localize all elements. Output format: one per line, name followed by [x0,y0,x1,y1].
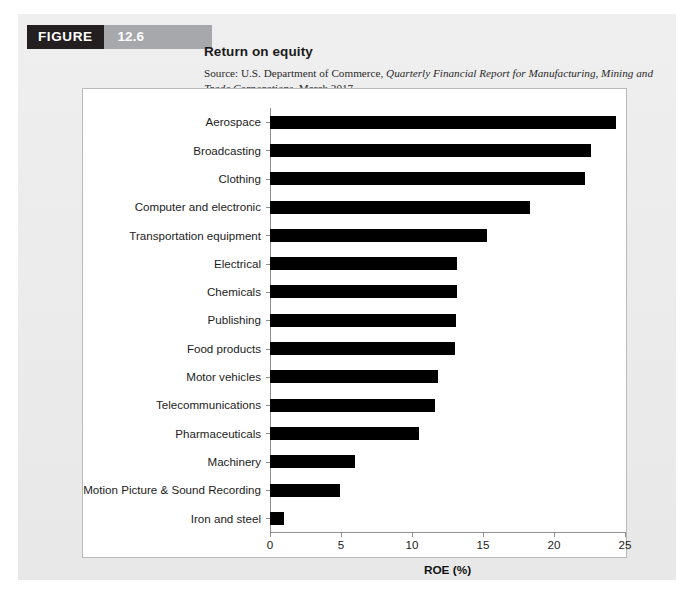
y-axis-tick [266,349,270,350]
bar-row: Motor vehicles [270,363,625,391]
bar-category-label: Clothing [218,173,261,185]
figure-number: 12.6 [104,25,212,49]
y-axis-tick [266,320,270,321]
bar [270,285,457,298]
bar-category-label: Publishing [208,314,262,326]
x-axis-tick-label: 15 [477,539,490,551]
y-axis-tick [266,179,270,180]
y-axis-tick [266,207,270,208]
bar [270,484,340,497]
bar-row: Electrical [270,250,625,278]
bar-row: Machinery [270,448,625,476]
x-axis-tick [412,532,413,537]
bar [270,172,585,185]
bar [270,229,487,242]
bar [270,257,457,270]
bar [270,314,456,327]
bar [270,512,284,525]
bar [270,342,455,355]
x-axis-tick [341,532,342,537]
bar-row: Clothing [270,165,625,193]
bar-row: Computer and electronic [270,193,625,221]
bar-row: Transportation equipment [270,221,625,249]
x-axis-tick-label: 0 [267,539,273,551]
bar-category-label: Computer and electronic [135,201,261,213]
bar-category-label: Motion Picture & Sound Recording [83,484,261,496]
bar-row: Pharmaceuticals [270,419,625,447]
x-axis-tick-label: 10 [406,539,419,551]
y-axis-tick [266,518,270,519]
y-axis-tick [266,377,270,378]
bar-category-label: Electrical [214,258,261,270]
bar-row: Food products [270,334,625,362]
bar [270,116,616,129]
y-axis-tick [266,490,270,491]
x-axis-tick-label: 25 [619,539,632,551]
bar-row: Motion Picture & Sound Recording [270,476,625,504]
x-axis-tick-label: 20 [548,539,561,551]
bar [270,427,419,440]
y-axis-tick [266,405,270,406]
bar [270,399,435,412]
bar-row: Aerospace [270,108,625,136]
y-axis-tick [266,264,270,265]
bar-category-label: Pharmaceuticals [175,428,261,440]
bar-category-label: Transportation equipment [129,230,261,242]
source-prefix: Source: U.S. Department of Commerce, [204,67,386,79]
bar-row: Broadcasting [270,136,625,164]
y-axis-tick [266,122,270,123]
bar [270,455,355,468]
x-axis-tick [625,532,626,537]
bar [270,201,530,214]
x-axis-title: ROE (%) [270,563,625,577]
figure-header: FIGURE 12.6 [27,25,212,49]
bar-category-label: Broadcasting [193,145,261,157]
bar [270,144,591,157]
y-axis-tick [266,462,270,463]
bar-category-label: Food products [187,343,261,355]
bar-row: Iron and steel [270,504,625,532]
bar-row: Publishing [270,306,625,334]
bar-category-label: Machinery [208,456,261,468]
figure-title: Return on equity [204,44,313,59]
figure-panel: FIGURE 12.6 Return on equity Source: U.S… [18,14,676,580]
bar-category-label: Motor vehicles [186,371,261,383]
bar-category-label: Aerospace [206,116,261,128]
x-axis-tick [554,532,555,537]
bar-row: Chemicals [270,278,625,306]
figure-badge-label: FIGURE [27,25,104,49]
x-axis-tick-label: 5 [338,539,344,551]
bar-category-label: Chemicals [207,286,261,298]
y-axis-tick [266,150,270,151]
x-axis-tick [483,532,484,537]
y-axis-tick [266,235,270,236]
y-axis-tick [266,292,270,293]
x-axis-tick [270,532,271,537]
bar-row: Telecommunications [270,391,625,419]
chart-frame: AerospaceBroadcastingClothingComputer an… [82,88,627,558]
bar [270,370,438,383]
plot-area: AerospaceBroadcastingClothingComputer an… [270,108,625,532]
bar-category-label: Telecommunications [156,399,261,411]
y-axis-tick [266,433,270,434]
bar-category-label: Iron and steel [191,513,261,525]
